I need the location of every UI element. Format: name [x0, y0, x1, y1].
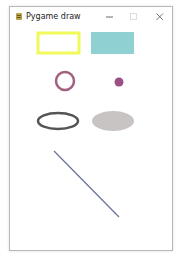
maximize-icon [130, 13, 138, 21]
minimize-button[interactable] [101, 9, 119, 24]
pygame-snake-icon [15, 12, 23, 21]
line [54, 151, 119, 217]
pygame-window: Pygame draw [9, 6, 173, 251]
title-bar[interactable]: Pygame draw [10, 7, 172, 27]
rectangle-filled [91, 32, 134, 54]
circle-filled [115, 78, 124, 87]
ellipse-filled [92, 111, 134, 131]
ellipse-outline [38, 113, 78, 129]
drawing-canvas [10, 27, 172, 251]
rectangle-outline [38, 33, 79, 53]
close-icon [156, 13, 164, 21]
minimize-icon [106, 13, 114, 21]
close-button[interactable] [151, 9, 169, 24]
maximize-button[interactable] [125, 9, 143, 24]
circle-outline [56, 72, 74, 90]
window-title: Pygame draw [26, 11, 81, 22]
